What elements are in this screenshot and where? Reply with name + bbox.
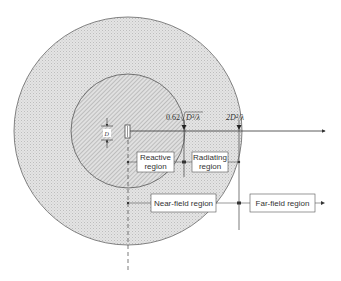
reactive-region-box: Reactive region — [137, 152, 174, 172]
nearfield-region-box: Near-field region — [151, 194, 216, 212]
farfield-region-box: Far-field region — [250, 194, 315, 212]
svg-text:D³/λ: D³/λ — [185, 113, 200, 122]
nearfield-span-start-dot — [127, 202, 129, 204]
field-regions-diagram: D 0.62 D³/λ 2D²/λ Reactive region Radiat… — [0, 0, 341, 281]
svg-text:Radiating: Radiating — [193, 153, 227, 162]
farfield-arrow-icon — [321, 201, 325, 205]
svg-text:Near-field region: Near-field region — [154, 199, 213, 208]
dimension-d-label: D — [104, 131, 110, 137]
svg-text:Far-field region: Far-field region — [256, 199, 310, 208]
svg-text:0.62: 0.62 — [166, 113, 180, 122]
reactive-span-start-dot — [127, 161, 129, 163]
farfield-boundary-mark — [237, 202, 241, 205]
radiating-region-box: Radiating region — [192, 152, 228, 172]
svg-text:region: region — [144, 162, 166, 171]
reactive-boundary-mark — [182, 161, 186, 164]
svg-text:Reactive: Reactive — [140, 153, 172, 162]
radiating-span-end-dot — [238, 161, 240, 163]
svg-text:region: region — [199, 162, 221, 171]
formula-farfield: 2D²/λ — [226, 113, 244, 122]
